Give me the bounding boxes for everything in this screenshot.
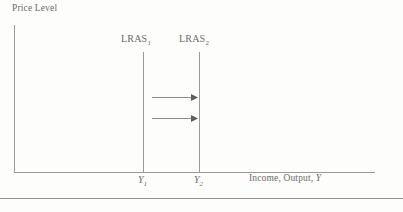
shift-arrow-upper-icon (152, 93, 198, 102)
lras2-label-subscript: 2 (205, 39, 209, 47)
x-axis-title-variable: Y (316, 173, 321, 183)
lras1-label-base: LRAS (121, 33, 147, 44)
bottom-divider (0, 198, 403, 199)
y1-tick-label: Y1 (138, 174, 147, 187)
lras1-curve-line (143, 52, 144, 172)
y1-label-subscript: 1 (144, 180, 148, 188)
lras-shift-diagram: Price Level LRAS1 LRAS2 Y1 Y2 Income, Ou… (0, 0, 403, 212)
y2-label-base: Y (194, 174, 200, 185)
lras1-label-subscript: 1 (147, 39, 151, 47)
y-axis-title: Price Level (12, 3, 57, 14)
lras2-curve-line (199, 52, 200, 172)
x-axis-title: Income, Output, Y (249, 173, 321, 184)
y2-label-subscript: 2 (200, 180, 204, 188)
y-axis-line (14, 25, 15, 173)
x-axis-title-prefix: Income, Output, (249, 173, 316, 183)
lras2-label-base: LRAS (179, 33, 205, 44)
y2-tick-label: Y2 (194, 174, 203, 187)
shift-arrow-lower-icon (152, 114, 198, 123)
y1-label-base: Y (138, 174, 144, 185)
lras2-curve-label: LRAS2 (179, 33, 209, 46)
lras1-curve-label: LRAS1 (121, 33, 151, 46)
